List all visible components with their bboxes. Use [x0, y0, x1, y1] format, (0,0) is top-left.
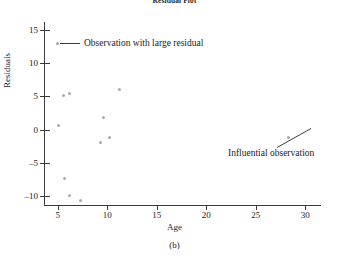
y-tick-label: 10	[29, 58, 38, 68]
y-tick-mark-inner	[45, 30, 50, 31]
y-tick-label: –5	[29, 158, 38, 168]
plot-area: 151050–5–10 51015202530	[44, 22, 321, 206]
x-axis-title: Age	[0, 222, 349, 232]
figure-caption: (b)	[0, 240, 349, 250]
x-tick-label: 5	[56, 210, 61, 220]
y-tick-mark-inner	[45, 63, 50, 64]
y-tick-mark-inner	[45, 163, 50, 164]
x-axis-line	[44, 205, 321, 206]
legend: Observation with large residual	[56, 38, 203, 48]
y-tick-label: 0	[34, 125, 39, 135]
data-point	[99, 141, 102, 144]
chart-title: Residual Plot	[0, 0, 349, 5]
x-tick-label: 20	[202, 210, 211, 220]
y-tick-label: 5	[34, 91, 39, 101]
x-tick-label: 10	[103, 210, 112, 220]
data-point	[102, 116, 105, 119]
x-tick-label: 25	[251, 210, 260, 220]
x-tick-label: 30	[301, 210, 310, 220]
legend-rule	[60, 43, 80, 44]
y-tick-mark-inner	[45, 130, 50, 131]
legend-marker-icon	[56, 42, 59, 45]
data-point	[68, 92, 71, 95]
y-tick-mark-inner	[45, 96, 50, 97]
legend-label: Observation with large residual	[84, 38, 203, 48]
y-axis-line	[44, 22, 45, 206]
data-point	[79, 199, 82, 202]
data-point	[118, 88, 121, 91]
y-tick-mark-inner	[45, 196, 50, 197]
annotation-label: Influential observation	[228, 148, 314, 158]
data-point	[62, 94, 65, 97]
data-point	[57, 124, 60, 127]
x-tick-label: 15	[152, 210, 161, 220]
y-tick-label: 15	[29, 25, 38, 35]
y-axis-title: Residuals	[2, 53, 12, 88]
data-point	[287, 136, 290, 139]
data-point	[63, 177, 66, 180]
residual-plot-figure: Residual Plot Residuals 151050–5–10 5101…	[0, 0, 349, 256]
data-point	[108, 136, 111, 139]
data-point	[68, 194, 71, 197]
y-tick-label: –10	[25, 191, 39, 201]
